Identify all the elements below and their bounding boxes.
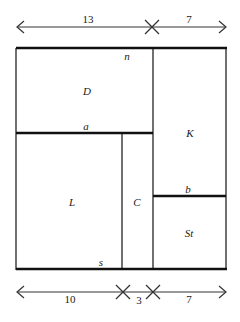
bottom-dim-label-7: 7	[186, 293, 192, 305]
bottom-dim-label-3: 3	[136, 294, 142, 306]
top-dimension-line: 13 7	[17, 13, 226, 34]
bottom-dim-label-10: 10	[65, 293, 77, 305]
region-label-st: St	[185, 227, 195, 239]
top-dim-label-13: 13	[83, 13, 95, 25]
region-label-k: K	[185, 127, 194, 139]
edge-label-b: b	[185, 183, 191, 195]
floor-plan-diagram: 13 7 D K L C St n a b s 10	[0, 0, 240, 322]
bottom-dimension-line: 10 3 7	[17, 285, 226, 306]
edge-label-n: n	[124, 50, 130, 62]
edge-label-s: s	[99, 256, 103, 268]
edge-label-a: a	[83, 120, 89, 132]
region-label-c: C	[133, 196, 141, 208]
region-label-d: D	[82, 85, 91, 97]
region-label-l: L	[68, 196, 75, 208]
top-dim-label-7: 7	[186, 13, 192, 25]
plan-outline	[16, 48, 227, 270]
